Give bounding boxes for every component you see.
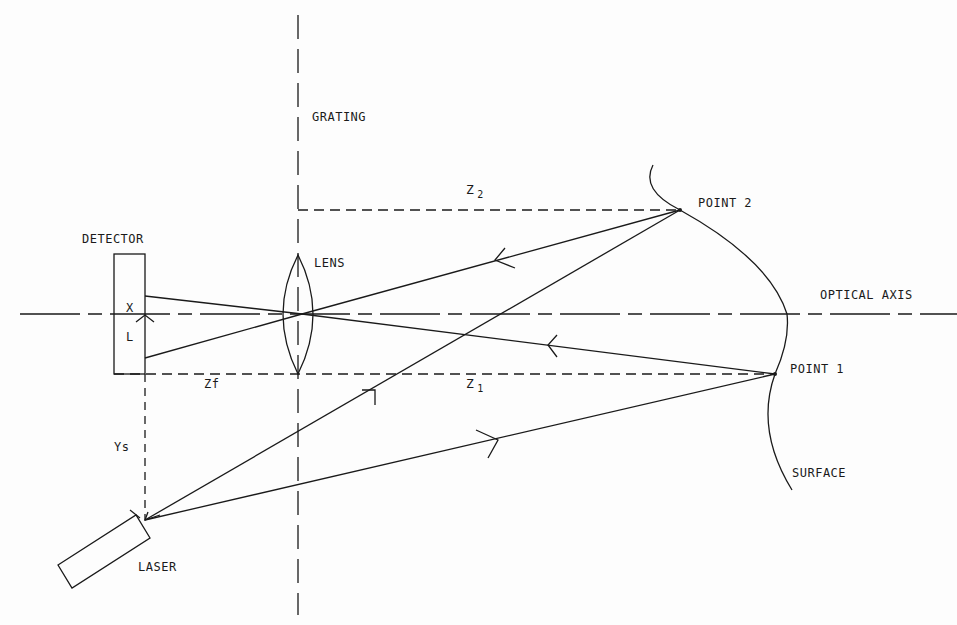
- point2-label: POINT 2: [698, 196, 752, 210]
- laser-aperture: [130, 510, 140, 518]
- surface-label: SURFACE: [792, 466, 846, 480]
- arrow-icon: [362, 390, 375, 405]
- z1-subscript: 1: [477, 383, 484, 394]
- ray: [302, 210, 680, 314]
- ray: [145, 374, 775, 520]
- arrow-icon: [476, 430, 498, 458]
- l-label: L: [126, 330, 134, 344]
- point2-marker: [678, 208, 682, 212]
- laser-body: [58, 515, 150, 588]
- laser-label: LASER: [138, 560, 177, 574]
- z2-label: Z2: [466, 182, 484, 197]
- detector-label: DETECTOR: [82, 232, 144, 246]
- z1-label: Z1: [466, 376, 484, 391]
- grating-label: GRATING: [312, 110, 366, 124]
- ray: [302, 314, 775, 374]
- z1-main: Z: [466, 376, 474, 391]
- optical-axis-label: OPTICAL AXIS: [820, 288, 913, 302]
- point1-marker: [773, 372, 777, 376]
- diagram-svg: [0, 0, 957, 625]
- point1-label: POINT 1: [790, 362, 844, 376]
- surface-curve: [650, 165, 792, 490]
- z2-subscript: 2: [477, 189, 484, 200]
- z2-main: Z: [466, 182, 474, 197]
- zf-label: Zf: [204, 377, 219, 391]
- x-label: X: [126, 301, 134, 315]
- optical-diagram: GRATING DETECTOR LENS OPTICAL AXIS POINT…: [0, 0, 957, 625]
- ray: [145, 210, 680, 520]
- ray: [145, 314, 302, 358]
- lens-label: LENS: [314, 256, 345, 270]
- ray: [145, 296, 302, 314]
- ys-label: Ys: [114, 440, 129, 454]
